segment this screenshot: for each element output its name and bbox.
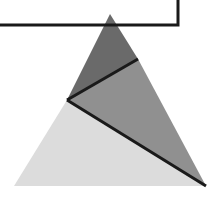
- figure-root: [0, 0, 219, 200]
- triangle-figure-svg: [0, 0, 219, 200]
